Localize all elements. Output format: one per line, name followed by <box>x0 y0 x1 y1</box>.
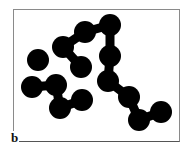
particle <box>97 70 119 92</box>
panel-label: b <box>11 131 19 144</box>
particle <box>27 49 49 71</box>
particle <box>52 36 74 58</box>
particle <box>70 56 92 78</box>
particle <box>99 14 121 36</box>
particle <box>21 76 43 98</box>
particle <box>128 109 150 131</box>
particle-aggregate-diagram <box>0 0 190 153</box>
particle <box>99 45 121 67</box>
particle <box>49 97 71 119</box>
particle <box>71 89 93 111</box>
particle <box>74 21 96 43</box>
particle <box>118 86 140 108</box>
particle <box>45 74 67 96</box>
particle <box>150 101 172 123</box>
